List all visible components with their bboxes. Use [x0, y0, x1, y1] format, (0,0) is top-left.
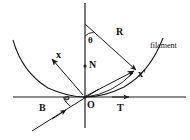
label-phi: φ [64, 93, 70, 102]
label-scattered-x-prime: x' [138, 69, 146, 79]
label-incident-x: x [56, 50, 61, 60]
diagram-vector-layer [0, 0, 190, 140]
diagram-canvas: θ φ N R x x' T B O filament [0, 0, 190, 140]
label-tangent-T: T [117, 103, 124, 113]
label-binormal-B: B [39, 103, 46, 113]
label-origin-O: O [87, 100, 95, 110]
label-theta: θ [88, 36, 93, 45]
label-normal-N: N [89, 60, 96, 70]
label-radius-R: R [116, 27, 123, 37]
label-filament: filament [150, 42, 177, 50]
normal-point-dot [84, 65, 87, 68]
incident-ray-x [52, 59, 83, 95]
binormal-direction-arrow [52, 110, 66, 119]
